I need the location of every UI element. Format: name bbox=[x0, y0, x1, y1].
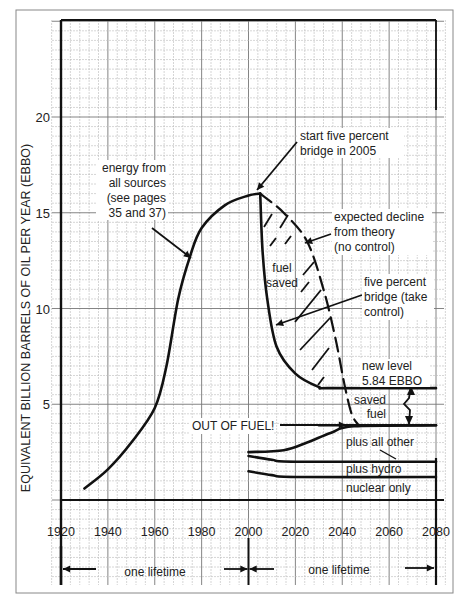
annotation-bridge-start-2: bridge in 2005 bbox=[300, 144, 376, 158]
annotation-saved-fuel-1: saved bbox=[354, 393, 386, 407]
annotation-decline-3: (no control) bbox=[334, 240, 395, 254]
annotation-new-level-2: 5.84 EBBO bbox=[362, 374, 422, 388]
annotation-fuel-saved-1: fuel bbox=[272, 261, 291, 275]
label-plus-all-other: plus all other bbox=[346, 435, 414, 449]
annotation-decline-2: from theory bbox=[334, 225, 395, 239]
label-lifetime-1: one lifetime bbox=[124, 565, 186, 579]
annotation-new-level-1: new level bbox=[362, 359, 412, 373]
x-tick-label: 1960 bbox=[141, 525, 169, 539]
chart: 1920194019601980200020202040206020805101… bbox=[0, 0, 463, 602]
y-axis-label: EQUIVALENT BILLION BARRELS OF OIL PER YE… bbox=[19, 144, 33, 492]
annotation-bridge-3: control) bbox=[364, 305, 404, 319]
x-tick-label: 2080 bbox=[422, 525, 450, 539]
annotation-saved-fuel-2: fuel bbox=[367, 407, 386, 421]
x-tick-label: 1920 bbox=[47, 525, 75, 539]
series-energy-from-all-sources bbox=[84, 194, 260, 489]
x-tick-label: 1940 bbox=[94, 525, 122, 539]
label-nuclear-only: nuclear only bbox=[346, 481, 411, 495]
annotation-energy-1: energy from bbox=[102, 161, 166, 175]
annotation-fuel-saved-2: saved bbox=[266, 276, 298, 290]
annotation-bridge-start-1: start five percent bbox=[300, 129, 389, 143]
fuel-saved-hatching bbox=[264, 214, 330, 385]
annotation-energy-3: (see pages bbox=[107, 191, 166, 205]
x-tick-label: 2060 bbox=[375, 525, 403, 539]
y-tick-label: 5 bbox=[43, 397, 50, 412]
x-tick-label: 2000 bbox=[235, 525, 263, 539]
x-tick-label: 2020 bbox=[281, 525, 309, 539]
label-plus-hydro: plus hydro bbox=[346, 462, 402, 476]
y-tick-label: 10 bbox=[36, 302, 50, 317]
annotation-energy-4: 35 and 37) bbox=[109, 206, 166, 220]
x-tick-label: 2040 bbox=[328, 525, 356, 539]
y-tick-label: 20 bbox=[36, 110, 50, 125]
annotation-decline-1: expected decline bbox=[334, 210, 424, 224]
annotation-energy-2: all sources bbox=[109, 176, 166, 190]
y-tick-label: 15 bbox=[36, 206, 50, 221]
label-lifetime-2: one lifetime bbox=[308, 563, 370, 577]
annotation-bridge-2: bridge (take bbox=[364, 290, 428, 304]
annotation-out-of-fuel: OUT OF FUEL! bbox=[192, 419, 274, 433]
annotation-bridge-1: five percent bbox=[364, 275, 427, 289]
x-tick-label: 1980 bbox=[188, 525, 216, 539]
